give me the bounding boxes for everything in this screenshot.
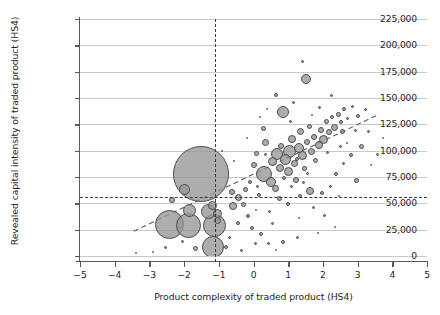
data-point — [259, 116, 261, 118]
data-point — [277, 106, 289, 118]
data-point — [329, 185, 332, 188]
data-point — [339, 120, 343, 124]
data-point — [288, 135, 296, 143]
x-axis-title: Product complexity of traded product (HS… — [80, 291, 427, 302]
data-point — [282, 176, 286, 180]
data-point — [181, 240, 184, 243]
data-point — [221, 150, 223, 152]
x-tick-mark — [149, 262, 150, 267]
x-tick-label: 3 — [346, 269, 370, 280]
x-tick-label: 0 — [242, 269, 266, 280]
data-point — [246, 214, 250, 218]
data-point — [298, 151, 307, 160]
data-point — [262, 139, 269, 146]
data-point — [135, 252, 137, 254]
data-point — [248, 180, 252, 184]
data-point — [318, 106, 321, 109]
x-tick-mark — [219, 262, 220, 267]
data-point — [304, 139, 310, 145]
data-point — [292, 101, 295, 104]
data-point — [315, 141, 323, 149]
data-point — [289, 120, 292, 123]
x-tick-label: −3 — [137, 269, 161, 280]
y-axis-title: Revealed capital intensity of traded pro… — [6, 0, 24, 262]
x-tick-mark — [80, 262, 81, 267]
data-point — [359, 144, 364, 149]
data-point — [382, 137, 384, 139]
data-point — [224, 245, 228, 249]
data-point — [164, 246, 167, 249]
data-point — [240, 249, 243, 252]
data-point — [284, 167, 293, 176]
x-tick-mark — [254, 262, 255, 267]
data-point — [179, 184, 190, 195]
data-point — [264, 153, 267, 156]
data-point — [267, 242, 270, 245]
data-point — [176, 213, 201, 238]
x-tick-mark — [392, 262, 393, 267]
data-point — [236, 221, 240, 225]
data-point — [336, 112, 341, 117]
y-tick-mark — [75, 256, 80, 257]
data-point — [228, 236, 231, 239]
data-point — [229, 202, 237, 210]
data-point — [297, 128, 304, 135]
bubble-layer — [80, 19, 427, 256]
x-tick-label: −1 — [207, 269, 231, 280]
data-point — [331, 124, 338, 131]
data-point — [259, 232, 263, 236]
data-point — [317, 232, 319, 234]
data-point — [193, 246, 198, 251]
data-point — [152, 251, 154, 253]
data-point — [312, 206, 315, 209]
data-point — [311, 114, 313, 116]
data-point — [301, 60, 304, 63]
data-point — [202, 236, 224, 256]
data-point — [313, 158, 318, 163]
x-tick-mark — [115, 262, 116, 267]
data-point — [302, 166, 307, 171]
data-point — [354, 129, 357, 132]
data-point — [349, 153, 353, 157]
data-point — [330, 94, 333, 97]
data-point — [243, 187, 248, 192]
data-point — [255, 209, 257, 211]
data-point — [324, 119, 329, 124]
data-point — [320, 191, 324, 195]
data-point — [169, 197, 175, 203]
data-point — [370, 164, 372, 166]
data-point — [302, 181, 305, 184]
data-point — [364, 108, 367, 111]
x-tick-label: 1 — [276, 269, 300, 280]
data-point — [183, 204, 196, 217]
data-point — [295, 157, 299, 161]
data-point — [280, 154, 291, 165]
complexity-threshold-line — [215, 19, 216, 262]
data-point — [318, 127, 324, 133]
data-point — [367, 130, 370, 133]
x-axis-line — [76, 261, 428, 262]
data-point — [326, 151, 329, 154]
data-point — [276, 164, 284, 172]
data-point — [351, 105, 354, 108]
x-tick-label: 2 — [311, 269, 335, 280]
data-point — [340, 129, 345, 134]
data-point — [246, 137, 248, 139]
data-point — [356, 114, 360, 118]
bubble-chart: Revealed capital intensity of traded pro… — [0, 0, 440, 315]
x-tick-mark — [427, 262, 428, 267]
data-point — [311, 134, 317, 140]
data-point — [306, 187, 314, 195]
data-point — [268, 210, 271, 213]
data-point — [256, 185, 259, 188]
x-tick-label: 5 — [415, 269, 439, 280]
data-point — [275, 249, 277, 251]
x-tick-label: −2 — [172, 269, 196, 280]
data-point — [233, 160, 235, 162]
data-point — [286, 202, 290, 206]
data-point — [290, 185, 293, 188]
data-point — [296, 236, 299, 239]
data-point — [250, 226, 254, 230]
data-point — [376, 153, 379, 156]
x-tick-mark — [358, 262, 359, 267]
